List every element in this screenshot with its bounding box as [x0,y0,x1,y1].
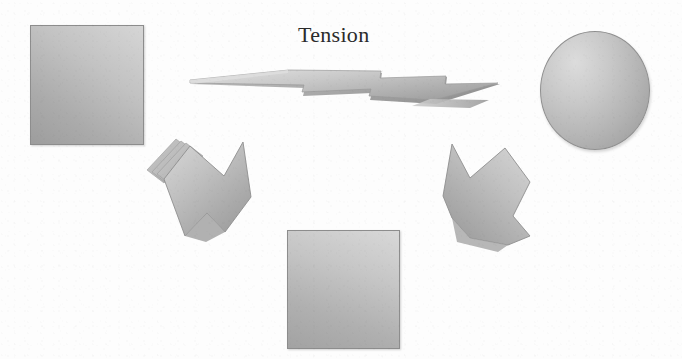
block-arrow-down-left-icon [0,0,682,359]
tension-label: Tension [298,22,369,48]
figure-canvas: Tension [0,0,682,359]
